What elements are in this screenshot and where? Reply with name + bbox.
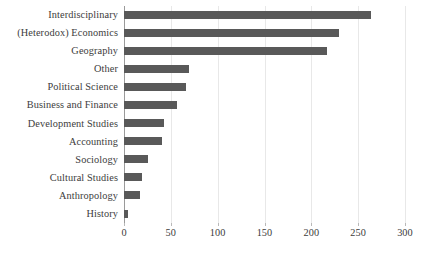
bar-row [124, 60, 405, 78]
bar-row [124, 169, 405, 187]
bar[interactable] [124, 210, 128, 218]
x-axis-tick-label: 50 [166, 227, 177, 238]
bar-row [124, 24, 405, 42]
y-axis-labels: Interdisciplinary(Heterodox) EconomicsGe… [0, 6, 118, 223]
y-axis-label: Development Studies [0, 118, 118, 129]
y-axis-label: Political Science [0, 81, 118, 92]
y-axis-label: Accounting [0, 136, 118, 147]
y-axis-label: (Heterodox) Economics [0, 27, 118, 38]
bar[interactable] [124, 173, 142, 181]
x-axis-tick-label: 250 [350, 227, 366, 238]
y-axis-label: Cultural Studies [0, 172, 118, 183]
y-axis-label: Anthropology [0, 190, 118, 201]
bar[interactable] [124, 47, 327, 55]
x-axis-tick [218, 223, 219, 226]
bar-row [124, 205, 405, 223]
x-axis-tick [358, 223, 359, 226]
bar-row [124, 151, 405, 169]
y-axis-label: Interdisciplinary [0, 9, 118, 20]
bar[interactable] [124, 137, 162, 145]
x-axis-tick-label: 100 [210, 227, 226, 238]
bar-row [124, 6, 405, 24]
gridline-300 [405, 6, 406, 223]
x-axis-tick [171, 223, 172, 226]
y-axis-label: History [0, 208, 118, 219]
y-axis-label: Sociology [0, 154, 118, 165]
bar-chart: Interdisciplinary(Heterodox) EconomicsGe… [0, 0, 433, 258]
bar[interactable] [124, 11, 371, 19]
bar-rows [124, 6, 405, 223]
x-axis-tick [124, 223, 125, 226]
bar-row [124, 42, 405, 60]
x-axis-tick-label: 0 [121, 227, 126, 238]
x-axis-tick [265, 223, 266, 226]
bar[interactable] [124, 191, 140, 199]
x-axis-tick-label: 300 [397, 227, 413, 238]
bar-row [124, 115, 405, 133]
bar-row [124, 133, 405, 151]
bar[interactable] [124, 101, 177, 109]
bar[interactable] [124, 65, 189, 73]
bar-row [124, 78, 405, 96]
bar-row [124, 96, 405, 114]
bar[interactable] [124, 119, 164, 127]
bar[interactable] [124, 29, 339, 37]
x-axis-tick [405, 223, 406, 226]
bar[interactable] [124, 83, 186, 91]
y-axis-label: Business and Finance [0, 99, 118, 110]
bar[interactable] [124, 155, 148, 163]
bar-row [124, 187, 405, 205]
y-axis-label: Other [0, 63, 118, 74]
y-axis-label: Geography [0, 45, 118, 56]
plot-area [124, 6, 405, 223]
x-axis-tick-label: 150 [257, 227, 273, 238]
x-axis-tick [311, 223, 312, 226]
x-axis: 050100150200250300 [124, 223, 405, 243]
x-axis-tick-label: 200 [303, 227, 319, 238]
